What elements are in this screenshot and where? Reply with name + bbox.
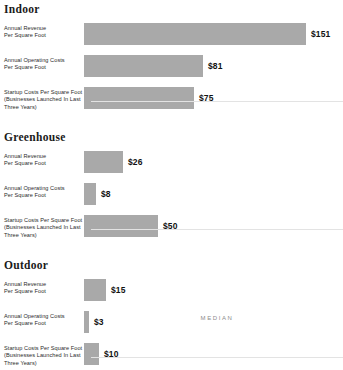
bar-area: $75 (84, 86, 343, 123)
axis-label-median: MEDIAN (91, 315, 343, 321)
chart-section-greenhouse: Greenhouse Annual Revenue Per Square Foo… (0, 122, 343, 250)
row-label-line: Startup Costs Per Square Foot (4, 345, 84, 352)
bar-wrap: $15 (84, 279, 125, 301)
bar[interactable] (84, 23, 306, 45)
row-label-line: Annual Operating Costs (4, 185, 84, 192)
row-label-line: Annual Operating Costs (4, 313, 84, 320)
bar-wrap: $75 (84, 87, 213, 109)
bar-area: $81 (84, 54, 343, 87)
bar[interactable] (84, 215, 158, 237)
bar[interactable] (84, 279, 106, 301)
row-label-line: Three Years) (4, 360, 84, 367)
row-label-line: Startup Costs Per Square Foot (4, 89, 84, 96)
row-label: Annual Revenue Per Square Foot (0, 22, 84, 40)
row-label-line: Per Square Foot (4, 288, 84, 295)
bar-value: $8 (101, 189, 111, 199)
row-label: Annual Operating Costs Per Square Foot (0, 54, 84, 72)
bar-area: $10 (84, 342, 343, 370)
chart-row: Annual Revenue Per Square Foot $151 (0, 22, 343, 54)
row-label-line: Per Square Foot (4, 64, 84, 71)
row-label-line: (Businesses Launched In Last (4, 224, 84, 231)
bar-area: $15 (84, 278, 343, 311)
bar[interactable] (84, 183, 96, 205)
row-label: Annual Revenue Per Square Foot (0, 278, 84, 296)
bar-area: $151 (84, 22, 343, 55)
bar-area: $8 (84, 182, 343, 215)
row-label-line: Per Square Foot (4, 160, 84, 167)
bar[interactable] (84, 55, 203, 77)
bar-value: $81 (208, 61, 222, 71)
bar[interactable] (84, 151, 123, 173)
section-title-outdoor: Outdoor (0, 259, 343, 272)
row-label-line: Startup Costs Per Square Foot (4, 217, 84, 224)
bar-wrap: $8 (84, 183, 111, 205)
chart-section-outdoor: Outdoor Annual Revenue Per Square Foot $… (0, 250, 343, 370)
bar-area: $26 (84, 150, 343, 183)
row-label: Startup Costs Per Square Foot (Businesse… (0, 214, 84, 239)
section-divider (91, 101, 343, 102)
row-label-line: Per Square Foot (4, 192, 84, 199)
row-label-line: (Businesses Launched In Last (4, 352, 84, 359)
row-label-line: Per Square Foot (4, 320, 84, 327)
row-label: Startup Costs Per Square Foot (Businesse… (0, 86, 84, 111)
row-label: Annual Revenue Per Square Foot (0, 150, 84, 168)
chart-row: Startup Costs Per Square Foot (Businesse… (0, 86, 343, 122)
bar-value: $15 (111, 285, 125, 295)
section-title-greenhouse: Greenhouse (0, 131, 343, 144)
row-label-line: Annual Revenue (4, 281, 84, 288)
row-label-line: Per Square Foot (4, 32, 84, 39)
bar-wrap: $26 (84, 151, 142, 173)
chart-row: Annual Operating Costs Per Square Foot $… (0, 182, 343, 214)
section-rows-indoor: Annual Revenue Per Square Foot $151 Annu… (0, 22, 343, 122)
row-label-line: Annual Operating Costs (4, 57, 84, 64)
bar-wrap: $50 (84, 215, 177, 237)
chart-row: Annual Revenue Per Square Foot $15 (0, 278, 343, 310)
row-label-line: Three Years) (4, 232, 84, 239)
bar[interactable] (84, 343, 99, 365)
section-title-indoor: Indoor (0, 3, 343, 16)
row-label-line: (Businesses Launched In Last (4, 96, 84, 103)
section-divider (91, 229, 343, 230)
chart-section-indoor: Indoor Annual Revenue Per Square Foot $1… (0, 0, 343, 122)
chart-row: Annual Revenue Per Square Foot $26 (0, 150, 343, 182)
row-label-line: Three Years) (4, 104, 84, 111)
bar-wrap: $151 (84, 23, 330, 45)
bar-area: $50 (84, 214, 343, 251)
row-label: Startup Costs Per Square Foot (Businesse… (0, 342, 84, 367)
chart-row: Startup Costs Per Square Foot (Businesse… (0, 342, 343, 370)
bar[interactable] (84, 87, 194, 109)
axis-line (91, 357, 343, 358)
bar-value: $151 (311, 29, 330, 39)
bar-wrap: $81 (84, 55, 222, 77)
chart-row: Startup Costs Per Square Foot (Businesse… (0, 214, 343, 250)
row-label: Annual Operating Costs Per Square Foot (0, 182, 84, 200)
row-label-line: Annual Revenue (4, 153, 84, 160)
row-label-line: Annual Revenue (4, 25, 84, 32)
bar[interactable] (84, 311, 89, 333)
row-label: Annual Operating Costs Per Square Foot (0, 310, 84, 328)
bar-value: $26 (128, 157, 142, 167)
chart-row: Annual Operating Costs Per Square Foot $… (0, 54, 343, 86)
section-rows-greenhouse: Annual Revenue Per Square Foot $26 Annua… (0, 150, 343, 250)
bar-wrap: $10 (84, 343, 118, 365)
